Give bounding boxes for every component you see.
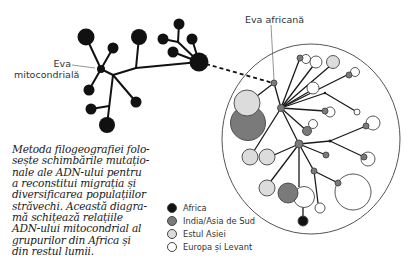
eva-mitocondriala-line1: Eva [14, 58, 71, 69]
europe-swatch-icon [167, 242, 177, 252]
eva-africana-label: Eva africană [245, 14, 304, 25]
eva-mitocondriala-line2: mitocondrială [14, 69, 71, 80]
legend-label: Africa [183, 203, 207, 213]
legend-label: Europa și Levant [183, 242, 252, 252]
legend-label: Estul Asiei [183, 229, 226, 239]
africa-swatch-icon [167, 203, 177, 213]
legend-item-east-asia: Estul Asiei [167, 227, 255, 240]
caption: Metoda filogeografiei folo- sește schimb… [12, 144, 157, 257]
eva-mito-pointer [72, 65, 95, 68]
legend-item-europe: Europa și Levant [167, 240, 255, 253]
caption-line: din restul lumii. [12, 246, 157, 257]
east-asia-swatch-icon [167, 229, 177, 239]
legend-label: India/Asia de Sud [183, 216, 255, 226]
india-swatch-icon [167, 216, 177, 226]
legend-item-india: India/Asia de Sud [167, 214, 255, 227]
dashed-link [206, 64, 273, 83]
legend: Africa India/Asia de Sud Estul Asiei Eur… [167, 201, 255, 253]
caption-line: sește schimbările mutațio- [12, 155, 157, 166]
eva-mitocondriala-label: Eva mitocondrială [14, 58, 71, 80]
legend-item-africa: Africa [167, 201, 255, 214]
